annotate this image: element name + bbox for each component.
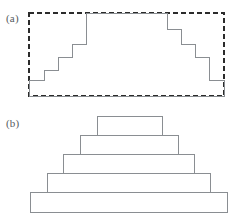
panel-b-group — [30, 116, 227, 212]
panel-b-layer-4 — [47, 173, 210, 192]
panel-a-group — [29, 13, 224, 96]
panel-b-layer-2 — [80, 135, 178, 154]
panel-b-layer-3 — [63, 154, 194, 173]
figure-container: (a) (b) — [0, 0, 251, 218]
figure-drawing — [0, 0, 251, 218]
panel-b-layer-bottom — [30, 192, 227, 212]
panel-a-staircase-outline — [29, 13, 224, 96]
panel-b-layer-top — [97, 116, 162, 135]
